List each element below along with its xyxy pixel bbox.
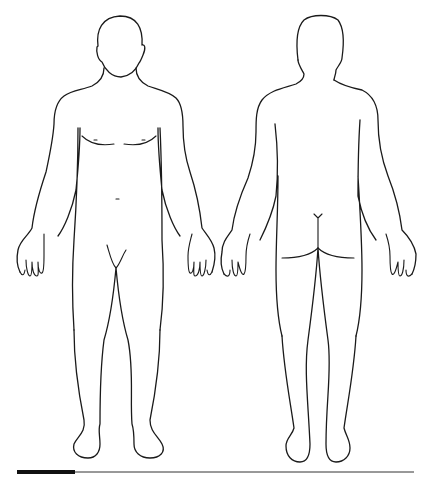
- front-body-right: [136, 68, 215, 272]
- back-right-hand: [386, 234, 412, 276]
- scale-bar: [17, 470, 414, 474]
- front-left-hand: [20, 234, 44, 276]
- back-gluteal-cleft: [314, 214, 322, 248]
- front-torso-left: [58, 128, 80, 330]
- back-left-hand: [224, 234, 250, 276]
- front-groin: [107, 245, 126, 268]
- back-neck-right: [334, 80, 416, 274]
- back-legs: [282, 248, 356, 462]
- back-torso-left: [260, 124, 282, 336]
- front-legs: [74, 268, 164, 458]
- back-head: [297, 16, 343, 81]
- back-neck-left: [221, 60, 304, 274]
- scale-bar-filled: [17, 470, 75, 474]
- front-right-hand: [188, 234, 212, 276]
- front-view: [17, 16, 215, 458]
- front-torso-right: [158, 128, 180, 330]
- back-torso-right: [356, 120, 376, 336]
- front-body-left: [17, 68, 104, 272]
- body-diagram: [0, 0, 431, 481]
- back-view: [221, 16, 416, 463]
